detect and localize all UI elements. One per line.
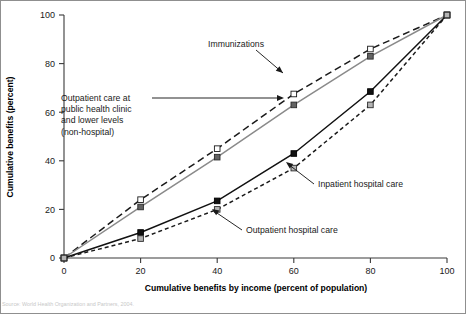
data-point-marker — [61, 255, 67, 261]
annotation-line: Outpatient care at — [61, 93, 131, 103]
x-axis-title: Cumulative benefits by income (percent o… — [145, 283, 368, 293]
annotation-label-immunizations: Immunizations — [208, 39, 265, 49]
annotation-label-outpatient-hospital: Outpatient hospital care — [246, 225, 338, 235]
data-point-marker — [138, 236, 144, 242]
annotation-label-inpatient-hospital: Inpatient hospital care — [318, 179, 403, 189]
series-line — [64, 15, 447, 258]
annotation-label-outpatient-phc: Outpatient care atpublic health clinican… — [61, 93, 132, 137]
data-point-marker — [291, 91, 297, 97]
data-point-marker — [291, 151, 297, 157]
series-line — [64, 15, 447, 258]
x-tick-label: 20 — [136, 266, 146, 276]
x-tick-label: 40 — [212, 266, 222, 276]
y-tick-label: 0 — [50, 253, 55, 263]
series-line — [64, 15, 447, 258]
y-tick-label: 100 — [40, 10, 55, 20]
series-1 — [61, 12, 450, 261]
chart-container: 020406080100 020406080100 Cumulative ben… — [0, 0, 466, 314]
data-point-marker — [214, 154, 220, 160]
y-tick-label: 80 — [45, 59, 55, 69]
data-point-marker — [368, 46, 374, 52]
y-tick-label: 40 — [45, 156, 55, 166]
data-point-marker — [291, 102, 297, 108]
data-point-marker — [138, 204, 144, 210]
series-4 — [61, 12, 450, 261]
series-line — [64, 15, 447, 258]
y-tick-label: 60 — [45, 108, 55, 118]
annotation-line: Inpatient hospital care — [318, 179, 403, 189]
data-point-marker — [214, 198, 220, 204]
x-tick-label: 80 — [365, 266, 375, 276]
data-point-marker — [138, 230, 144, 236]
line-chart-figure: 020406080100 020406080100 Cumulative ben… — [0, 0, 466, 314]
data-point-marker — [444, 12, 450, 18]
annotation-line: (non-hospital) — [61, 127, 114, 137]
annotation-leaders — [152, 50, 314, 230]
x-tick-label: 0 — [61, 266, 66, 276]
leader-arrowhead-outpatient-phc — [277, 95, 284, 101]
series-3 — [61, 12, 450, 261]
x-axis-ticks: 020406080100 — [61, 258, 454, 276]
figure-caption: Source: World Health Organization and Pa… — [2, 301, 302, 307]
annotation-line: Immunizations — [208, 39, 265, 49]
data-point-marker — [138, 197, 144, 203]
data-point-marker — [368, 54, 374, 60]
annotation-line: and lower levels — [61, 115, 124, 125]
y-axis-title: Cumulative benefits (percent) — [5, 76, 15, 197]
series-layer — [61, 12, 450, 261]
x-tick-label: 60 — [289, 266, 299, 276]
leader-line-outpatient-hospital — [214, 211, 242, 230]
data-point-marker — [368, 102, 374, 108]
series-2 — [61, 12, 450, 261]
data-point-marker — [214, 146, 220, 152]
annotation-line: Outpatient hospital care — [246, 225, 338, 235]
y-tick-label: 20 — [45, 205, 55, 215]
data-point-marker — [368, 89, 374, 95]
plot-axes — [64, 15, 447, 258]
leader-line-inpatient-hospital — [288, 164, 314, 184]
x-tick-label: 100 — [439, 266, 454, 276]
annotation-line: public health clinic — [61, 104, 132, 114]
y-axis-ticks: 020406080100 — [40, 10, 64, 263]
